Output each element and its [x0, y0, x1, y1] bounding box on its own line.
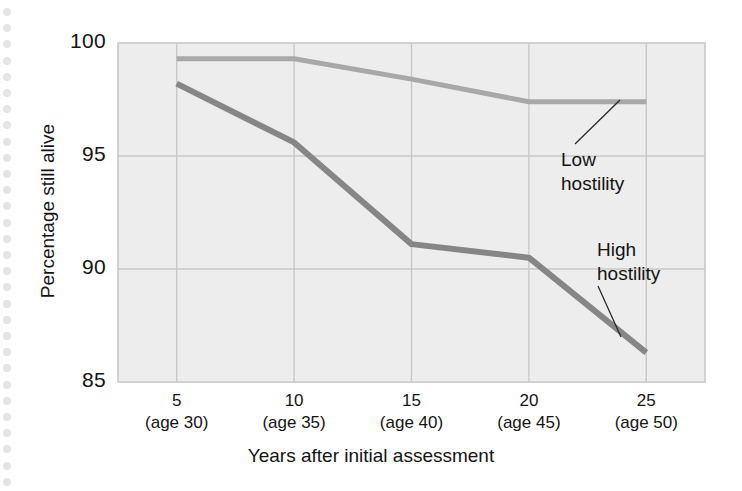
y-axis-title: Percentage still alive	[37, 91, 59, 331]
annotation-low-line1: Low	[561, 148, 624, 172]
x-tick-years: 25	[586, 390, 706, 412]
x-tick-label: 5(age 30)	[117, 390, 237, 434]
x-tick-age: (age 35)	[234, 412, 354, 434]
x-tick-age: (age 30)	[117, 412, 237, 434]
y-tick-label: 85	[44, 368, 106, 392]
x-tick-label: 10(age 35)	[234, 390, 354, 434]
x-tick-age: (age 40)	[352, 412, 472, 434]
x-tick-years: 15	[352, 390, 472, 412]
x-tick-label: 20(age 45)	[469, 390, 589, 434]
annotation-high-line1: High	[597, 238, 660, 262]
x-tick-label: 25(age 50)	[586, 390, 706, 434]
series-annotation-low-hostility: Low hostility	[561, 148, 624, 195]
x-tick-years: 10	[234, 390, 354, 412]
annotation-high-line2: hostility	[597, 262, 660, 286]
annotation-low-line2: hostility	[561, 172, 624, 196]
y-tick-label: 100	[44, 29, 106, 53]
x-axis-title: Years after initial assessment	[0, 445, 742, 467]
x-tick-age: (age 50)	[586, 412, 706, 434]
series-annotation-high-hostility: High hostility	[597, 238, 660, 285]
x-tick-years: 5	[117, 390, 237, 412]
line-chart-figure: 100959085 5(age 30)10(age 35)15(age 40)2…	[0, 0, 742, 491]
x-tick-years: 20	[469, 390, 589, 412]
x-tick-label: 15(age 40)	[352, 390, 472, 434]
x-tick-age: (age 45)	[469, 412, 589, 434]
